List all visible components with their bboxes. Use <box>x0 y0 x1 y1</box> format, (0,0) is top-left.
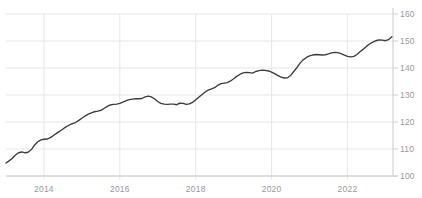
y-axis-tick-label: 160 <box>400 9 415 19</box>
x-axis-tick-label: 2014 <box>24 184 64 194</box>
chart-container: 100110120130140150160 201420162018202020… <box>0 0 422 198</box>
x-axis-tick-label: 2018 <box>176 184 216 194</box>
y-axis-tick-label: 120 <box>400 117 415 127</box>
vertical-gridlines <box>44 14 348 180</box>
x-axis-tick-label: 2020 <box>252 184 292 194</box>
line-chart-plot <box>0 0 422 198</box>
x-axis-tick-label: 2022 <box>327 184 367 194</box>
x-axis-tick-label: 2016 <box>100 184 140 194</box>
y-axis-tick-label: 150 <box>400 36 415 46</box>
y-axis-tick-label: 140 <box>400 63 415 73</box>
y-axis-tick-label: 110 <box>400 144 414 154</box>
y-axis-tick-label: 130 <box>400 90 415 100</box>
y-axis-tick-label: 100 <box>400 171 415 181</box>
data-line-series-index <box>6 37 392 163</box>
axis-lines <box>6 8 398 176</box>
ytick-marks <box>393 14 398 176</box>
horizontal-gridlines <box>6 14 393 176</box>
